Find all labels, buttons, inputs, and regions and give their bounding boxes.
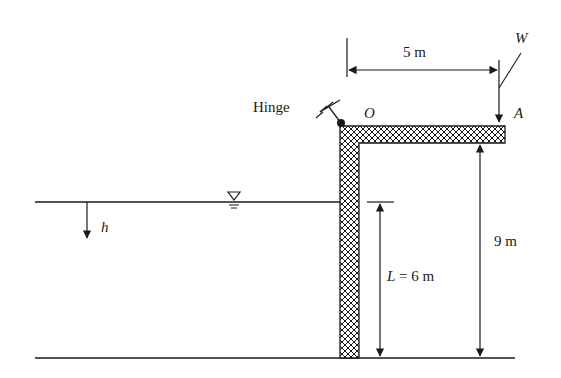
point-a-label: A xyxy=(513,105,524,121)
gate-length-var: L xyxy=(386,268,395,284)
load-label: W xyxy=(515,30,529,46)
height-label: 9 m xyxy=(494,233,517,249)
load-leader xyxy=(499,53,521,88)
hinged-gate-diagram: h Hinge O 5 m W A 9 m L = 6 m xyxy=(0,0,561,378)
depth-label: h xyxy=(101,219,109,235)
hinge-label: Hinge xyxy=(253,99,290,115)
water-level-icon xyxy=(228,192,240,208)
gate-length-value: = 6 m xyxy=(395,268,434,284)
point-o-label: O xyxy=(364,105,375,121)
gate-length-label: L = 6 m xyxy=(386,268,435,284)
hinge-icon xyxy=(316,100,345,127)
span-label: 5 m xyxy=(403,44,426,60)
